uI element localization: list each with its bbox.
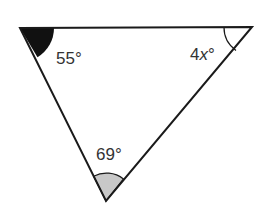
angle-label-bottom: 69° — [96, 145, 122, 164]
angle-label-top-right: 4x° — [190, 45, 215, 64]
angle-label-top-left: 55° — [56, 49, 82, 68]
triangle-diagram: 55° 4x° 69° — [0, 0, 273, 217]
triangle-outline — [20, 27, 252, 201]
angle-marker-top-left — [20, 28, 54, 57]
